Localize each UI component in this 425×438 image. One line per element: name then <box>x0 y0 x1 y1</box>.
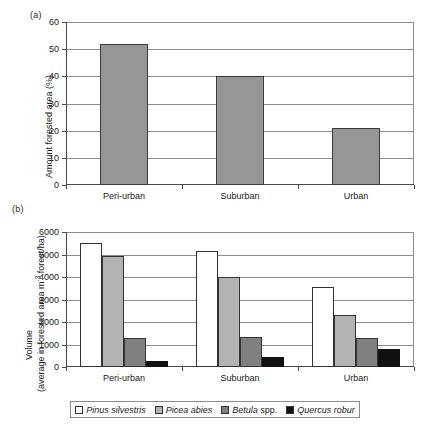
chart-b-bar <box>356 338 378 367</box>
panel-a-label: (a) <box>30 10 42 20</box>
legend-label-roman: spp. <box>260 405 277 415</box>
legend-item: Pinus silvestris <box>75 405 146 415</box>
y-tick-label: 60 <box>49 17 59 27</box>
y-tick-label: 10 <box>49 153 59 163</box>
x-tick-mark <box>66 185 67 189</box>
chart-b-bar <box>312 287 334 367</box>
y-tick-label: 2000 <box>39 317 59 327</box>
y-tick-label: 3000 <box>39 295 59 305</box>
chart-b-legend: Pinus silvestrisPicea abiesBetula spp.Qu… <box>70 401 360 418</box>
chart-a-y-axis <box>66 22 67 185</box>
x-category-label: Urban <box>344 191 369 201</box>
chart-b-bar <box>218 277 240 367</box>
chart-b-plot-area <box>66 232 414 367</box>
legend-swatch-icon <box>155 406 163 414</box>
y-tick-label: 20 <box>49 126 59 136</box>
x-tick-mark <box>298 367 299 371</box>
y-tick-label: 50 <box>49 44 59 54</box>
legend-label: Pinus silvestris <box>86 405 146 415</box>
chart-b-bar <box>378 349 400 367</box>
chart-b-y-axis <box>66 232 67 367</box>
chart-b-bar <box>240 337 262 367</box>
legend-item: Quercus robur <box>286 405 355 415</box>
y-tick-label: 40 <box>49 71 59 81</box>
legend-swatch-icon <box>75 406 83 414</box>
chart-b-bar <box>124 338 146 367</box>
y-tick-label: 30 <box>49 99 59 109</box>
x-category-label: Suburban <box>220 191 259 201</box>
y-tick-label: 6000 <box>39 227 59 237</box>
x-tick-mark <box>298 185 299 189</box>
legend-item: Betula spp. <box>221 405 277 415</box>
chart-a-bar <box>332 128 381 185</box>
y-tick-label: 4000 <box>39 272 59 282</box>
chart-b-bar <box>196 251 218 367</box>
panel-b-label: (b) <box>12 204 24 214</box>
x-category-label: Peri-urban <box>103 191 145 201</box>
legend-swatch-icon <box>221 406 229 414</box>
chart-a-plot-area <box>66 22 414 185</box>
legend-swatch-icon <box>286 406 294 414</box>
legend-item: Picea abies <box>155 405 213 415</box>
chart-b-y-axis-title-line1: Volume <box>24 330 34 360</box>
chart-a-bar <box>216 76 265 185</box>
chart-b-bar <box>262 357 284 367</box>
x-tick-mark <box>182 185 183 189</box>
legend-label: Betula spp. <box>232 405 277 415</box>
x-tick-mark <box>182 367 183 371</box>
x-tick-mark <box>414 367 415 371</box>
y-tick-label: 0 <box>54 180 59 190</box>
x-category-label: Peri-urban <box>103 373 145 383</box>
y-tick-label: 5000 <box>39 250 59 260</box>
x-tick-mark <box>414 185 415 189</box>
chart-a-bar <box>100 44 149 185</box>
x-category-label: Suburban <box>220 373 259 383</box>
chart-b-bar <box>102 256 124 367</box>
chart-b-bar <box>146 361 168 367</box>
y-tick-label: 0 <box>54 362 59 372</box>
chart-b-bar <box>80 243 102 367</box>
legend-label: Picea abies <box>166 405 213 415</box>
y-tick-label: 1000 <box>39 340 59 350</box>
gridline <box>66 232 414 233</box>
x-category-label: Urban <box>344 373 369 383</box>
x-tick-mark <box>66 367 67 371</box>
legend-label: Quercus robur <box>297 405 355 415</box>
gridline <box>66 22 414 23</box>
chart-b-bar <box>334 315 356 367</box>
